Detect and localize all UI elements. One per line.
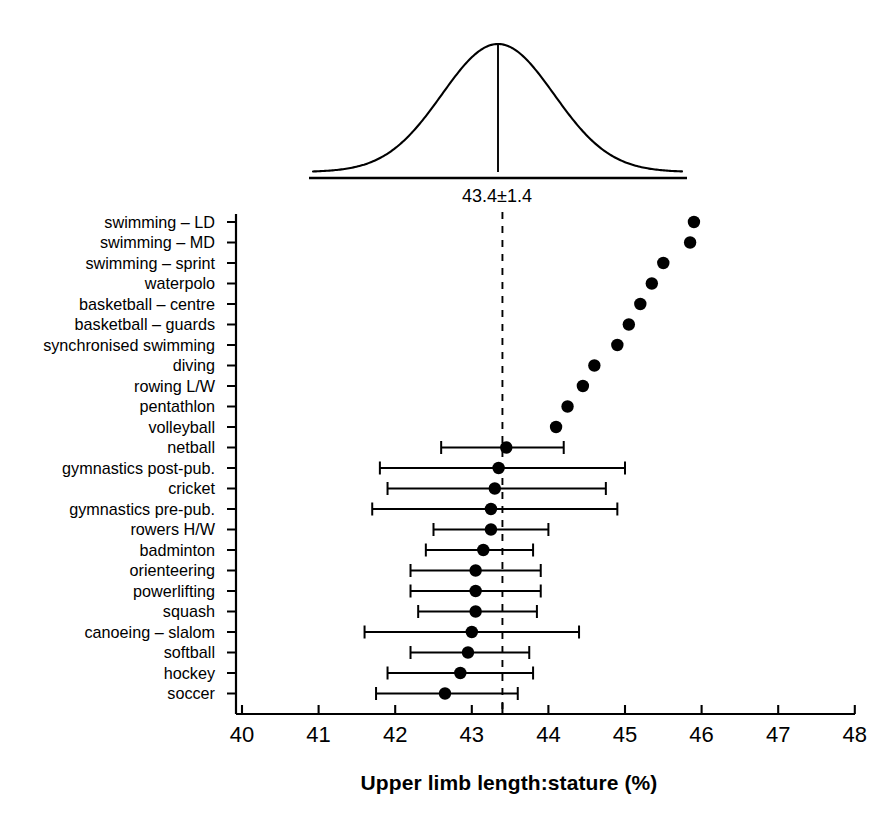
category-label: netball (167, 438, 215, 456)
data-point (439, 687, 451, 699)
category-label: gymnastics pre-pub. (69, 500, 215, 518)
data-point (684, 236, 696, 248)
category-label: basketball – guards (75, 315, 215, 333)
category-labels-group: swimming – LDswimming – MDswimming – spr… (43, 213, 216, 703)
data-point (489, 482, 501, 494)
x-tick-label: 48 (843, 722, 867, 747)
x-tick-label: 47 (766, 722, 790, 747)
figure-root: 404142434445464748 swimming – LDswimming… (0, 0, 879, 829)
data-point (634, 298, 646, 310)
category-label: swimming – MD (100, 233, 215, 251)
data-point (550, 421, 562, 433)
data-point (485, 503, 497, 515)
x-tick-label: 42 (383, 722, 407, 747)
category-label: cricket (168, 479, 215, 497)
category-label: volleyball (148, 418, 215, 436)
data-point (561, 400, 573, 412)
category-label: waterpolo (144, 274, 215, 292)
x-tick-label: 46 (689, 722, 713, 747)
category-label: pentathlon (139, 397, 215, 415)
category-label: diving (173, 356, 215, 374)
data-point (588, 359, 600, 371)
category-label: swimming – LD (104, 213, 215, 231)
x-tick-label: 44 (536, 722, 560, 747)
data-point (462, 646, 474, 658)
category-label: canoeing – slalom (85, 623, 215, 641)
x-axis-title: Upper limb length:stature (%) (361, 771, 658, 794)
category-label: badminton (139, 541, 215, 559)
category-label: squash (163, 602, 215, 620)
x-tick-label: 43 (460, 722, 484, 747)
data-point (657, 257, 669, 269)
data-point (611, 339, 623, 351)
chart-canvas: 404142434445464748 swimming – LDswimming… (0, 0, 879, 829)
x-tick-label: 41 (306, 722, 330, 747)
category-label: soccer (167, 684, 215, 702)
category-label: basketball – centre (79, 295, 215, 313)
category-label: orienteering (130, 561, 216, 579)
data-point (577, 380, 589, 392)
data-points-group (439, 216, 700, 700)
data-point (477, 544, 489, 556)
data-point (688, 216, 700, 228)
data-point (469, 585, 481, 597)
x-tick-labels-group: 404142434445464748 (230, 722, 867, 747)
category-label: synchronised swimming (43, 336, 215, 354)
distribution-mean-label: 43.4±1.4 (462, 186, 532, 206)
data-point (492, 462, 504, 474)
category-label: softball (164, 643, 215, 661)
category-label: rowing L/W (134, 377, 216, 395)
category-label: gymnastics post-pub. (62, 459, 215, 477)
data-point (469, 564, 481, 576)
x-tick-label: 40 (230, 722, 254, 747)
axes-group (227, 214, 855, 714)
data-point (500, 441, 512, 453)
error-bars-group (365, 441, 625, 700)
x-tick-label: 45 (613, 722, 637, 747)
category-label: rowers H/W (130, 520, 215, 538)
data-point (623, 318, 635, 330)
data-point (466, 626, 478, 638)
category-label: powerlifting (133, 582, 215, 600)
data-point (646, 277, 658, 289)
category-label: hockey (164, 664, 216, 682)
normal-distribution-curve-group (309, 44, 687, 178)
data-point (469, 605, 481, 617)
category-label: swimming – sprint (85, 254, 215, 272)
data-point (454, 667, 466, 679)
data-point (485, 523, 497, 535)
